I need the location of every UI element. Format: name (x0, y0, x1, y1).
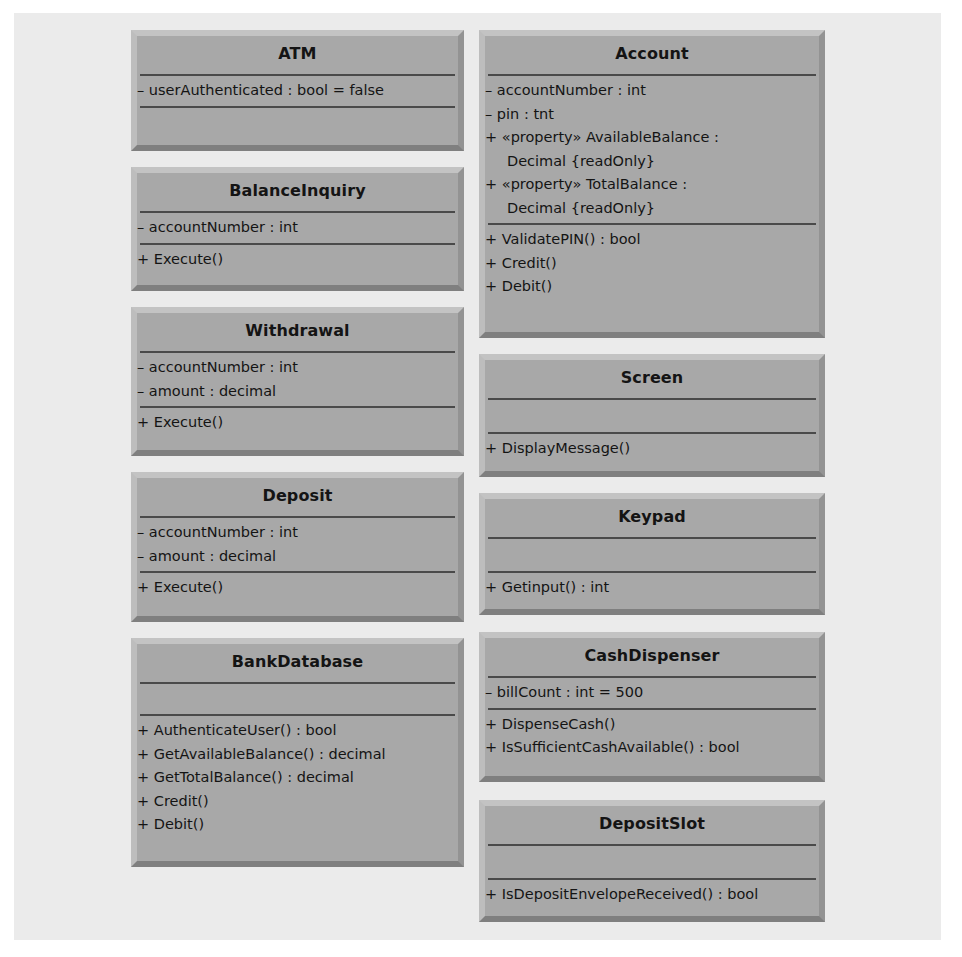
operation: + IsDepositEnvelopeReceived() : bool (485, 883, 816, 907)
attribute: – accountNumber : int (485, 79, 816, 103)
operation: + Credit() (137, 790, 455, 814)
attributes-compartment (488, 398, 816, 432)
operation: + Debit() (137, 813, 455, 837)
operation: + Debit() (485, 275, 816, 299)
attributes-compartment: – accountNumber : int – amount : decimal (140, 516, 455, 571)
operation: + Execute() (137, 411, 455, 435)
attribute-continuation: Decimal {readOnly} (485, 150, 816, 174)
operation: + ValidatePIN() : bool (485, 228, 816, 252)
class-cash-dispenser: CashDispenser – billCount : int = 500 + … (479, 632, 825, 782)
operation: + GetTotalBalance() : decimal (137, 766, 455, 790)
operations-compartment (140, 106, 455, 134)
class-name: DepositSlot (485, 806, 819, 844)
class-bank-database: BankDatabase + AuthenticateUser() : bool… (131, 638, 464, 867)
attributes-compartment: – accountNumber : int – amount : decimal (140, 351, 455, 406)
class-name: CashDispenser (485, 638, 819, 676)
attribute: + «property» AvailableBalance : (485, 126, 816, 150)
class-name: Account (485, 36, 819, 74)
operations-compartment: + IsDepositEnvelopeReceived() : bool (488, 878, 816, 910)
attributes-compartment (140, 682, 455, 714)
attributes-compartment (488, 844, 816, 878)
class-screen: Screen + DisplayMessage() (479, 354, 825, 477)
operation: + GetAvailableBalance() : decimal (137, 743, 455, 767)
class-name: ATM (137, 36, 458, 74)
operations-compartment: + Execute() (140, 406, 455, 438)
class-deposit-slot: DepositSlot + IsDepositEnvelopeReceived(… (479, 800, 825, 922)
operations-compartment: + AuthenticateUser() : bool + GetAvailab… (140, 714, 455, 840)
operation: + DispenseCash() (485, 713, 816, 737)
class-withdrawal: Withdrawal – accountNumber : int – amoun… (131, 307, 464, 456)
attributes-compartment: – accountNumber : int – pin : tnt + «pro… (488, 74, 816, 223)
operation: + AuthenticateUser() : bool (137, 719, 455, 743)
attribute: – accountNumber : int (137, 521, 455, 545)
attribute: – amount : decimal (137, 380, 455, 404)
operation: + Execute() (137, 576, 455, 600)
class-name: Screen (485, 360, 819, 398)
class-name: Deposit (137, 478, 458, 516)
class-balance-inquiry: BalanceInquiry – accountNumber : int + E… (131, 167, 464, 291)
operations-compartment: + DispenseCash() + IsSufficientCashAvail… (488, 708, 816, 763)
attribute: – accountNumber : int (137, 216, 455, 240)
operations-compartment: + Execute() (140, 571, 455, 603)
attribute: – amount : decimal (137, 545, 455, 569)
attribute: + «property» TotalBalance : (485, 173, 816, 197)
operation: + IsSufficientCashAvailable() : bool (485, 736, 816, 760)
operations-compartment: + Getinput() : int (488, 571, 816, 603)
attributes-compartment: – billCount : int = 500 (488, 676, 816, 708)
operation: + Execute() (137, 248, 455, 272)
attribute: – pin : tnt (485, 103, 816, 127)
attribute-continuation: Decimal {readOnly} (485, 197, 816, 221)
operations-compartment: + ValidatePIN() : bool + Credit() + Debi… (488, 223, 816, 302)
class-name: Keypad (485, 499, 819, 537)
attribute: – userAuthenticated : bool = false (137, 79, 455, 103)
attribute: – accountNumber : int (137, 356, 455, 380)
class-deposit: Deposit – accountNumber : int – amount :… (131, 472, 464, 622)
operations-compartment: + DisplayMessage() (488, 432, 816, 464)
attributes-compartment: – userAuthenticated : bool = false (140, 74, 455, 106)
attributes-compartment: – accountNumber : int (140, 211, 455, 243)
class-account: Account – accountNumber : int – pin : tn… (479, 30, 825, 338)
class-name: BalanceInquiry (137, 173, 458, 211)
operations-compartment: + Execute() (140, 243, 455, 275)
operation: + DisplayMessage() (485, 437, 816, 461)
operation: + Getinput() : int (485, 576, 816, 600)
attribute: – billCount : int = 500 (485, 681, 816, 705)
class-name: Withdrawal (137, 313, 458, 351)
attributes-compartment (488, 537, 816, 571)
class-keypad: Keypad + Getinput() : int (479, 493, 825, 615)
class-atm: ATM – userAuthenticated : bool = false (131, 30, 464, 151)
operation: + Credit() (485, 252, 816, 276)
class-name: BankDatabase (137, 644, 458, 682)
